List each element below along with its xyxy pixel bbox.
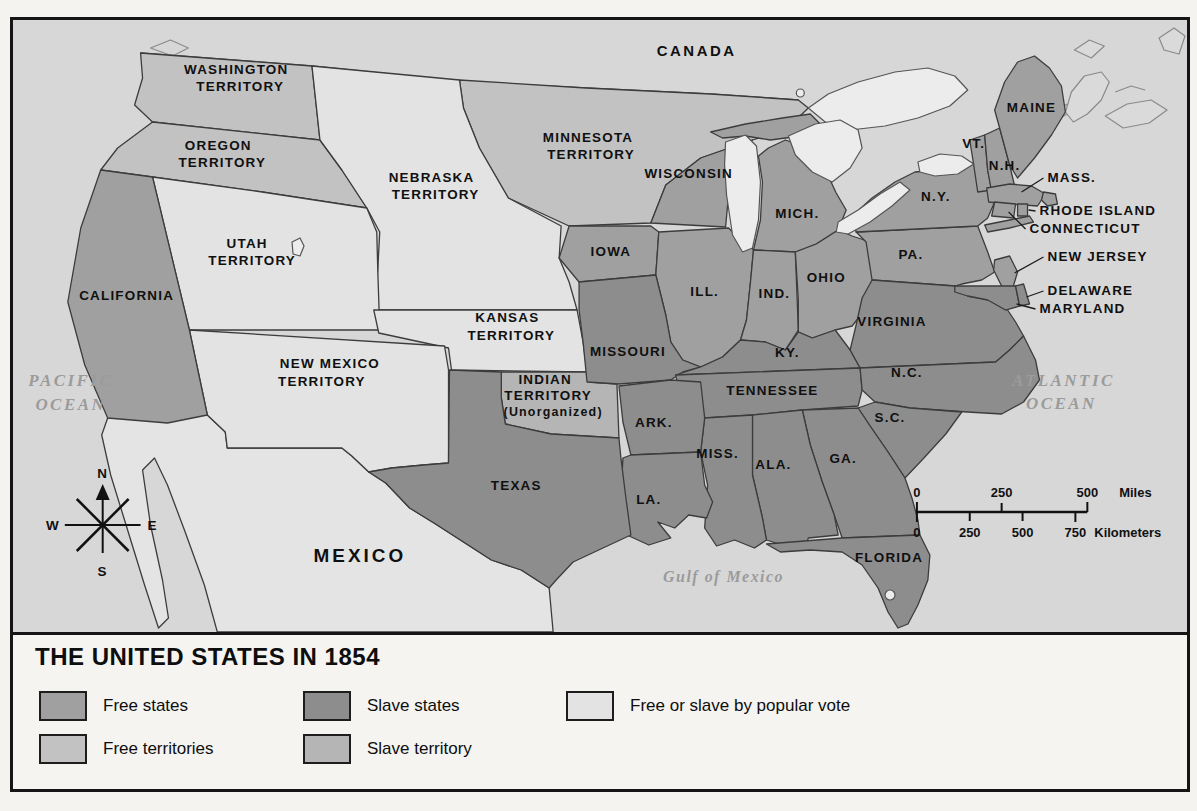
compass-label-s: S	[98, 564, 108, 579]
label-indian-territory-2: TERRITORY	[504, 388, 592, 403]
label-new-jersey: NEW JERSEY	[1047, 249, 1147, 264]
label-utah-territory-1: UTAH	[227, 236, 268, 251]
label-nebraska-territory-1: NEBRASKA	[389, 170, 475, 185]
label-mississippi: MISS.	[696, 446, 739, 461]
lake-of-the-woods	[796, 89, 804, 97]
compass-label-n: N	[97, 466, 108, 481]
region-rhode-island	[1018, 204, 1028, 216]
map-figure: CANADA MEXICO PACIFIC OCEAN ATLANTIC OCE…	[10, 17, 1190, 792]
label-rhode-island: RHODE ISLAND	[1040, 203, 1157, 218]
label-canada: CANADA	[657, 42, 737, 59]
map-legend: THE UNITED STATES IN 1854 Free states Fr…	[13, 632, 1187, 789]
label-california: CALIFORNIA	[79, 288, 174, 303]
scale-km-unit: Kilometers	[1094, 525, 1161, 540]
label-louisiana: LA.	[636, 492, 661, 507]
legend-label-popular-vote: Free or slave by popular vote	[630, 696, 850, 716]
label-ohio: OHIO	[807, 270, 846, 285]
scale-miles-tick-500: 500	[1077, 485, 1099, 500]
new-brunswick-outline	[1065, 72, 1109, 122]
callout-delaware	[1027, 291, 1044, 297]
label-texas: TEXAS	[491, 478, 542, 493]
label-oregon-territory-1: OREGON	[185, 138, 252, 153]
book-page: CANADA MEXICO PACIFIC OCEAN ATLANTIC OCE…	[0, 0, 1197, 811]
scale-bar: 0 250 500 Miles 0 250 500 750 Kilometers	[913, 485, 1161, 540]
label-indian-territory-1: INDIAN	[518, 372, 572, 387]
label-minnesota-territory-1: MINNESOTA	[543, 130, 633, 145]
label-massachusetts: MASS.	[1047, 170, 1096, 185]
label-alabama: ALA.	[755, 457, 791, 472]
scale-km-tick-0: 0	[913, 525, 920, 540]
label-delaware: DELAWARE	[1047, 283, 1133, 298]
label-kansas-territory-1: KANSAS	[475, 310, 539, 325]
label-connecticut: CONNECTICUT	[1030, 221, 1141, 236]
label-nebraska-territory-2: TERRITORY	[392, 187, 480, 202]
scale-miles-tick-250: 250	[991, 485, 1013, 500]
legend-label-free-territories: Free territories	[103, 739, 214, 759]
legend-item-slave-states: Slave states	[303, 691, 460, 721]
label-illinois: ILL.	[690, 284, 719, 299]
label-washington-territory-1: WASHINGTON	[184, 62, 288, 77]
legend-label-free-states: Free states	[103, 696, 188, 716]
label-washington-territory-2: TERRITORY	[196, 79, 284, 94]
label-arkansas: ARK.	[635, 415, 673, 430]
legend-item-popular-vote: Free or slave by popular vote	[566, 691, 850, 721]
label-pacific-ocean-1: PACIFIC	[27, 371, 113, 390]
callout-new-jersey	[1015, 257, 1044, 273]
label-north-carolina: N.C.	[891, 365, 923, 380]
legend-item-free-territories: Free territories	[39, 734, 214, 764]
legend-item-free-states: Free states	[39, 691, 188, 721]
label-atlantic-ocean-2: OCEAN	[1026, 394, 1097, 413]
region-louisiana	[621, 452, 713, 545]
label-oregon-territory-2: TERRITORY	[178, 155, 266, 170]
compass-label-w: W	[46, 518, 60, 533]
label-maryland: MARYLAND	[1040, 301, 1126, 316]
label-virginia: VIRGINIA	[857, 314, 926, 329]
label-vermont: VT.	[962, 136, 985, 151]
legend-swatch-free-territories	[39, 734, 87, 764]
label-indian-territory-3: (Unorganized)	[504, 405, 603, 419]
nova-scotia-outline	[1105, 100, 1167, 128]
label-minnesota-territory-2: TERRITORY	[547, 147, 635, 162]
label-michigan: MICH.	[775, 206, 819, 221]
label-new-mexico-territory-2: TERRITORY	[278, 374, 366, 389]
map-title: THE UNITED STATES IN 1854	[35, 643, 380, 671]
label-maine: MAINE	[1007, 100, 1056, 115]
gulf-islands-outline	[1074, 40, 1104, 58]
scale-km-tick-250: 250	[959, 525, 981, 540]
label-georgia: GA.	[829, 451, 857, 466]
label-iowa: IOWA	[591, 244, 632, 259]
label-missouri: MISSOURI	[590, 344, 666, 359]
prince-edward-island-outline	[1115, 86, 1145, 92]
legend-label-slave-territory: Slave territory	[367, 739, 472, 759]
label-mexico: MEXICO	[314, 545, 407, 566]
label-indiana: IND.	[759, 286, 791, 301]
legend-swatch-free-states	[39, 691, 87, 721]
legend-item-slave-territory: Slave territory	[303, 734, 472, 764]
label-tennessee: TENNESSEE	[726, 383, 818, 398]
label-wisconsin: WISCONSIN	[644, 166, 732, 181]
lake-okeechobee	[885, 590, 895, 600]
label-kansas-territory-2: TERRITORY	[467, 328, 555, 343]
label-florida: FLORIDA	[855, 550, 923, 565]
label-gulf-of-mexico: Gulf of Mexico	[663, 568, 784, 586]
label-utah-territory-2: TERRITORY	[208, 253, 296, 268]
region-long-island	[985, 216, 1034, 232]
label-south-carolina: S.C.	[875, 410, 906, 425]
scale-km-tick-750: 750	[1065, 525, 1087, 540]
region-florida	[766, 535, 929, 628]
newfoundland-outline	[1159, 28, 1185, 54]
compass-label-e: E	[147, 518, 157, 533]
region-pennsylvania	[856, 226, 995, 286]
label-new-mexico-territory-1: NEW MEXICO	[280, 356, 380, 371]
label-kentucky: KY.	[775, 345, 800, 360]
legend-label-slave-states: Slave states	[367, 696, 460, 716]
legend-swatch-slave-territory	[303, 734, 351, 764]
label-atlantic-ocean-1: ATLANTIC	[1011, 371, 1115, 390]
label-new-hampshire: N.H.	[989, 158, 1021, 173]
callout-rhode-island	[1029, 210, 1036, 211]
label-pennsylvania: PA.	[898, 247, 923, 262]
scale-miles-tick-0: 0	[913, 485, 920, 500]
scale-miles-unit: Miles	[1119, 485, 1151, 500]
scale-km-tick-500: 500	[1012, 525, 1034, 540]
compass-north-arrowhead	[96, 484, 110, 500]
